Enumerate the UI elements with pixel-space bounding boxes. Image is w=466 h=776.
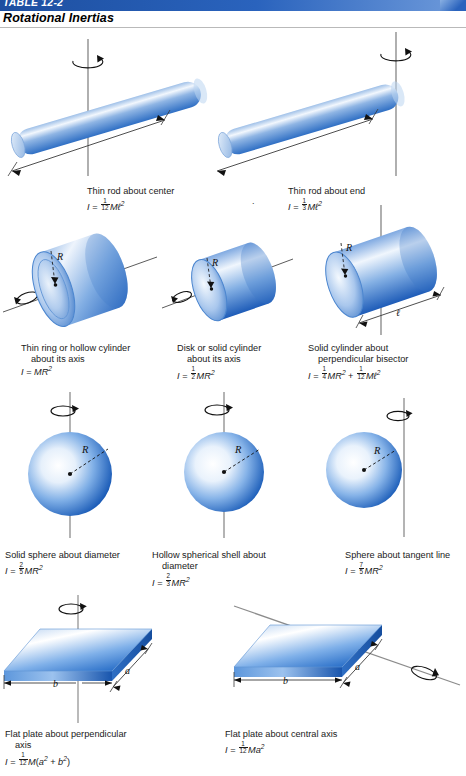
svg-text:R: R: [211, 257, 218, 268]
svg-text:a: a: [355, 661, 360, 672]
caption-cylinder-perp-bisector: Solid cylinder about perpendicular bisec…: [308, 343, 408, 382]
caption-formula: I = 12MR2: [177, 367, 261, 382]
caption-line-1: Thin ring or hollow cylinder: [21, 343, 130, 353]
figure-plate-central-axis: b a: [228, 595, 466, 727]
figure-thin-rod-end: [233, 26, 466, 186]
caption-line-1: Thin rod about center: [87, 186, 174, 196]
figure-plate-perpendicular: b a: [0, 595, 230, 727]
caption-line-1: Hollow spherical shell about: [152, 550, 266, 560]
fraction-1-12: 112: [357, 366, 366, 380]
caption-formula: I = 25MR2: [5, 562, 120, 577]
caption-line-1: Sphere about tangent line: [345, 550, 450, 560]
caption-line-1: Flat plate about central axis: [225, 729, 337, 739]
stray-dot-mark: .: [252, 196, 255, 206]
caption-line-2: about its axis: [21, 354, 130, 365]
fraction-2-5: 25: [19, 562, 25, 576]
fraction-1-12: 112: [239, 741, 248, 755]
caption-line-1: Solid cylinder about: [308, 343, 388, 353]
page-title: Rotational Inertias: [3, 11, 114, 25]
fraction-2-3: 23: [166, 573, 172, 587]
svg-text:R: R: [56, 251, 63, 262]
caption-plate-central-axis: Flat plate about central axis I = 112Ma2: [225, 729, 337, 757]
caption-solid-cylinder-axis: Disk or solid cylinder about its axis I …: [177, 343, 261, 382]
svg-text:a: a: [125, 665, 130, 676]
fraction-1-4: 14: [322, 366, 328, 380]
caption-formula: I = 112Ma2: [225, 741, 337, 756]
caption-line-2: about its axis: [177, 354, 261, 365]
caption-plate-perpendicular: Flat plate about perpendicular axis I = …: [5, 729, 127, 768]
caption-line-1: Flat plate about perpendicular: [5, 729, 127, 739]
figure-hollow-sphere: R: [178, 390, 318, 540]
svg-text:R: R: [81, 444, 89, 455]
caption-line-2: axis: [5, 740, 127, 751]
caption-formula: I = 14MR2 + 112Mℓ2: [308, 367, 408, 382]
fraction-1-2: 12: [191, 366, 197, 380]
fraction-7-5: 75: [359, 562, 365, 576]
figure-thin-rod-center: [0, 26, 233, 186]
caption-line-2: perpendicular bisector: [308, 354, 408, 365]
caption-solid-sphere: Solid sphere about diameter I = 25MR2: [5, 550, 120, 578]
caption-thin-ring: Thin ring or hollow cylinder about its a…: [21, 343, 130, 378]
header-corner-accent: [440, 0, 466, 11]
svg-text:ℓ: ℓ: [396, 308, 400, 318]
caption-line-2: diameter: [152, 561, 266, 572]
fraction-1-12: 112: [19, 752, 28, 766]
figure-thin-ring: R: [0, 205, 160, 340]
figure-solid-sphere: R: [30, 390, 170, 540]
svg-text:R: R: [345, 242, 352, 253]
caption-line-1: Disk or solid cylinder: [177, 343, 261, 353]
table-header-bar: TABLE 12-2: [0, 0, 466, 11]
figure-sphere-tangent: R: [320, 392, 466, 542]
rotational-inertia-table: TABLE 12-2 Rotational Inertias: [0, 0, 466, 776]
caption-sphere-tangent: Sphere about tangent line I = 75MR2: [345, 550, 450, 578]
caption-hollow-sphere: Hollow spherical shell about diameter I …: [152, 550, 266, 589]
svg-text:b: b: [283, 675, 288, 686]
caption-line-1: Thin rod about end: [288, 186, 365, 196]
svg-text:R: R: [234, 444, 242, 455]
table-number: TABLE 12-2: [3, 0, 63, 8]
caption-formula: I = 75MR2: [345, 562, 450, 577]
figure-solid-cylinder-axis: R: [160, 215, 295, 340]
figure-cylinder-perp-bisector: R ℓ: [295, 205, 466, 340]
caption-formula: I = 23MR2: [152, 574, 266, 589]
caption-line-1: Solid sphere about diameter: [5, 550, 120, 560]
caption-formula: I = 112M(a2 + b2): [5, 753, 127, 768]
svg-text:R: R: [373, 445, 381, 456]
caption-formula: I = MR2: [21, 367, 130, 378]
svg-text:b: b: [53, 678, 58, 689]
